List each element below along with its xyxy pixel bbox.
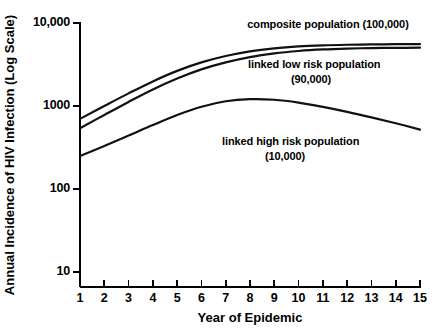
x-tick-label-2: 2: [101, 291, 108, 305]
x-tick-label-7: 7: [222, 291, 229, 305]
x-tick-label-13: 13: [364, 291, 378, 305]
y-tick-label-10: 10: [56, 264, 70, 278]
x-tick-label-8: 8: [247, 291, 254, 305]
annotation-low-risk-line1: linked low risk population: [248, 58, 381, 70]
x-tick-label-12: 12: [340, 291, 354, 305]
y-tick-label-1000: 1000: [43, 98, 70, 112]
y-tick-label-10000: 10,000: [33, 15, 70, 29]
x-tick-label-11: 11: [316, 291, 329, 305]
x-tick-label-5: 5: [174, 291, 181, 305]
annotation-high-risk-line2: (10,000): [265, 150, 306, 162]
x-tick-label-3: 3: [125, 291, 132, 305]
chart-background: [0, 0, 434, 332]
annotation-composite: composite population (100,000): [247, 18, 409, 30]
annotation-composite-line1: composite population (100,000): [247, 18, 409, 30]
x-tick-label-14: 14: [389, 291, 403, 305]
x-tick-label-9: 9: [271, 291, 278, 305]
annotation-low-risk-line2: (90,000): [291, 73, 332, 85]
y-axis-title: Annual Incidence of HIV Infection (Log S…: [2, 15, 17, 295]
x-tick-label-4: 4: [149, 291, 156, 305]
annotation-high-risk-line1: linked high risk population: [222, 135, 360, 147]
y-tick-label-100: 100: [50, 181, 71, 195]
x-tick-label-1: 1: [77, 291, 84, 305]
x-tick-label-15: 15: [413, 291, 427, 305]
chart-figure: Annual Incidence of HIV Infection (Log S…: [0, 0, 434, 332]
x-axis-title: Year of Epidemic: [198, 310, 303, 325]
hiv-incidence-log-chart: Annual Incidence of HIV Infection (Log S…: [0, 0, 434, 332]
x-tick-label-6: 6: [198, 291, 205, 305]
x-tick-label-10: 10: [292, 291, 306, 305]
